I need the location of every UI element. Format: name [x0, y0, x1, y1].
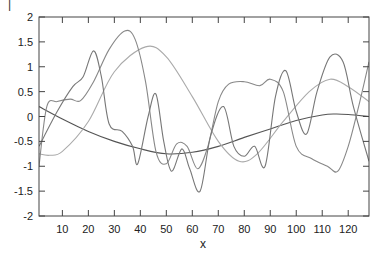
series-2-line [39, 46, 369, 162]
corner-mark: | [8, 0, 11, 11]
x-tick-label: 30 [108, 223, 120, 235]
x-tick-label: 100 [287, 223, 305, 235]
y-tick-label: 1.5 [18, 36, 33, 48]
series-1-line [39, 107, 369, 154]
y-tick-label: 0.5 [18, 86, 33, 98]
x-tick-label: 90 [264, 223, 276, 235]
line-chart: | -2-1.5-1-0.500.511.52 1020304050607080… [0, 0, 386, 260]
x-tick-label: 40 [134, 223, 146, 235]
y-tick-label: -2 [23, 210, 33, 222]
x-tick-label: 60 [186, 223, 198, 235]
x-axis-label: x [200, 237, 206, 251]
x-tick-label: 10 [56, 223, 68, 235]
x-tick-label: 20 [82, 223, 94, 235]
y-tick-label: 0 [27, 111, 33, 123]
x-tick-label: 80 [238, 223, 250, 235]
x-tick-label: 110 [313, 223, 331, 235]
y-tick-label: 1 [27, 61, 33, 73]
y-tick-label: -1.5 [14, 185, 33, 197]
series-3-line [39, 30, 369, 172]
series-layer [39, 30, 369, 192]
y-tick-label: -0.5 [14, 135, 33, 147]
x-tick-label: 70 [212, 223, 224, 235]
y-tick-label: -1 [23, 160, 33, 172]
x-tick-label: 120 [339, 223, 357, 235]
x-tick-label: 50 [160, 223, 172, 235]
x-axis: 102030405060708090100110120 [56, 17, 357, 235]
y-tick-label: 2 [27, 11, 33, 23]
